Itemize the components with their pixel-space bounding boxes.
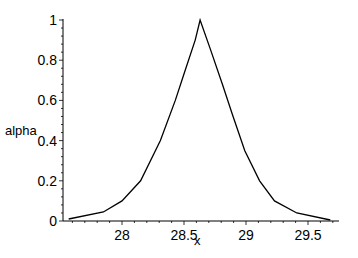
- y-tick-label: 0.2: [38, 173, 58, 189]
- y-tick-label: 0.8: [38, 52, 58, 68]
- axes: [63, 19, 339, 221]
- y-tick-label: 0.4: [38, 133, 58, 149]
- x-tick-label: 28: [114, 227, 130, 243]
- tick-labels: 00.20.40.60.812828.52929.5: [38, 12, 322, 243]
- ticks: [59, 20, 333, 225]
- x-tick-label: 29.5: [294, 227, 321, 243]
- y-tick-label: 0.6: [38, 92, 58, 108]
- x-tick-label: 29: [238, 227, 254, 243]
- x-axis-label: x: [194, 233, 201, 248]
- y-tick-label: 1: [49, 12, 57, 28]
- y-axis-label: alpha: [5, 123, 38, 138]
- chart: 00.20.40.60.812828.52929.5 alpha x: [0, 0, 358, 258]
- series-line-alpha: [69, 20, 331, 220]
- y-tick-label: 0: [49, 213, 57, 229]
